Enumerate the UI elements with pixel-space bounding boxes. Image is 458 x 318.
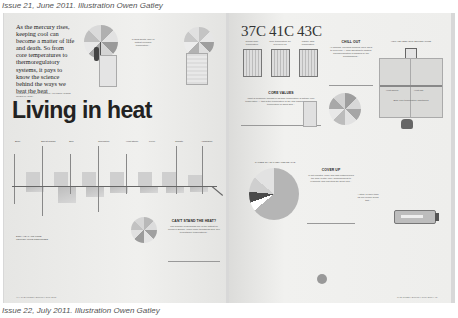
cover-up-title: COVER UP (307, 168, 355, 172)
timeline-label: Adaptation (201, 140, 212, 143)
umbrella-icon (329, 93, 361, 125)
side-text: A study of more than 12,000 people found… (357, 193, 379, 202)
thermometer-bar (394, 210, 436, 224)
temperature-value: 41C (269, 23, 294, 40)
band (380, 85, 442, 87)
bar (58, 187, 76, 203)
chill-out-title: CHILL OUT (329, 40, 373, 44)
figure-card (303, 101, 317, 127)
bar (110, 172, 124, 186)
diagram-label: Heat lost (414, 89, 438, 92)
bar (82, 172, 96, 186)
temperature-diagram: Heat gained Heat lost Body core temperat… (379, 58, 443, 118)
umbrella-icon (131, 217, 157, 243)
bar (162, 172, 176, 186)
vline (14, 154, 15, 204)
swimmer-icon (401, 119, 413, 129)
temp-caption: Core temperature for hyperpyrexia (269, 40, 291, 46)
temperature-value: 37C (241, 23, 266, 40)
vline (410, 59, 411, 117)
timeline-label: Sweat glands (41, 140, 55, 143)
right-page: 37C 41C 43C Normal body temperature Core… (229, 13, 451, 303)
bar (54, 172, 68, 186)
box-text: The summer of 2003 saw one of the hottes… (168, 225, 220, 234)
thermometer-frame-2 (186, 53, 208, 85)
vline (42, 146, 43, 216)
timeline-label: Heat stroke (126, 140, 138, 143)
diagram-label: Body core temperature maintained (390, 99, 432, 102)
axis-diagonal (212, 186, 223, 196)
divider (307, 223, 355, 224)
bar-end (435, 213, 439, 221)
umbrella-icon (84, 25, 118, 59)
timeline-label: Skin (69, 140, 74, 143)
deckchair-icon (299, 49, 318, 77)
bar (86, 187, 104, 197)
temperature-value: 43C (297, 23, 322, 40)
folio: THE TIMES • Eureka • June 2011 • 45 (397, 296, 437, 299)
divider (168, 261, 220, 262)
footnote: BODY HEAT AND CORE TEMPERATURE RESPONSES (16, 235, 56, 241)
core-values-title: CORE VALUES (241, 91, 321, 95)
vline (98, 146, 99, 212)
headline: Living in heat (12, 97, 152, 124)
magazine-spread: As the mercury rises, keeping cool can b… (3, 13, 455, 303)
left-page: As the mercury rises, keeping cool can b… (4, 13, 226, 303)
bar (190, 187, 208, 192)
bar (166, 187, 184, 193)
timeline-label: Fever (149, 140, 155, 143)
caption-bottom: Issue 22, July 2011. Illustration Owen G… (2, 306, 160, 315)
box-title: CAN'T STAND THE HEAT? (168, 219, 220, 223)
chill-out-text: All animals, including humans, have ways… (329, 46, 373, 58)
hand-icon (317, 274, 327, 284)
bar (26, 172, 40, 186)
cover-up-text: In hot climates, loose and light clothin… (307, 174, 355, 183)
bar (188, 175, 202, 186)
pie-chart (249, 168, 299, 220)
temp-caption: Usually fatal temperature (297, 40, 319, 46)
caption-top: Issue 21, June 2011. Illustration Owen G… (2, 1, 163, 10)
umbrella-illustration (84, 25, 118, 59)
diagram-title: HOW WE KEEP OUR TEMPERATURE (379, 40, 443, 43)
timeline-label: Circulation (98, 140, 109, 143)
thermometer-frame (99, 55, 117, 87)
pie-title: CAUSES OF HEAT-RELATED DEATHS (245, 161, 305, 164)
sidenote: In 2003 Death Valley's hottest recorded … (130, 38, 156, 47)
timeline-label: Body (15, 140, 20, 143)
bar (140, 187, 158, 193)
folio: 44 • THE TIMES • Eureka • June 2011 (16, 296, 56, 299)
bar-fill (401, 215, 423, 218)
diagram-label: Heat gained (386, 89, 410, 92)
bar (138, 172, 152, 186)
vline (70, 154, 71, 194)
deckchair-icon (271, 49, 290, 77)
temp-caption: Normal body temperature (241, 40, 263, 46)
deckchair-icon (243, 49, 262, 77)
timeline-label: Climate (175, 140, 183, 143)
vline (126, 154, 127, 194)
timeline-axis (12, 186, 217, 187)
intro-text: As the mercury rises, keeping cool can b… (16, 23, 76, 94)
divider (329, 85, 373, 86)
